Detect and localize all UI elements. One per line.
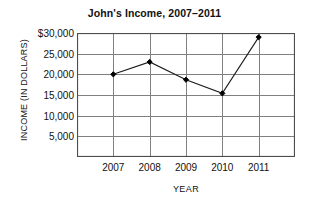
- y-tick-label: 10,000: [14, 110, 74, 121]
- chart-figure: John's Income, 2007–2011 INCOME (IN DOLL…: [0, 0, 309, 204]
- data-point-marker: [147, 59, 152, 64]
- data-point-marker: [111, 72, 116, 77]
- data-point-marker: [183, 77, 188, 82]
- plot-area: [77, 33, 295, 157]
- x-axis-tick-labels: 20072008200920102011: [77, 162, 295, 178]
- y-tick-label: 15,000: [14, 90, 74, 101]
- y-tick-label: 5,000: [14, 131, 74, 142]
- y-tick-label: 25,000: [14, 48, 74, 59]
- x-tick-label: 2011: [237, 162, 281, 173]
- y-tick-label: $30,000: [14, 28, 74, 39]
- x-axis-title: YEAR: [77, 184, 295, 194]
- chart-title: John's Income, 2007–2011: [0, 7, 309, 19]
- y-tick-label: 20,000: [14, 69, 74, 80]
- plot-svg: [77, 33, 295, 157]
- y-axis-tick-labels: $30,00025,00020,00015,00010,0005,000: [12, 33, 74, 157]
